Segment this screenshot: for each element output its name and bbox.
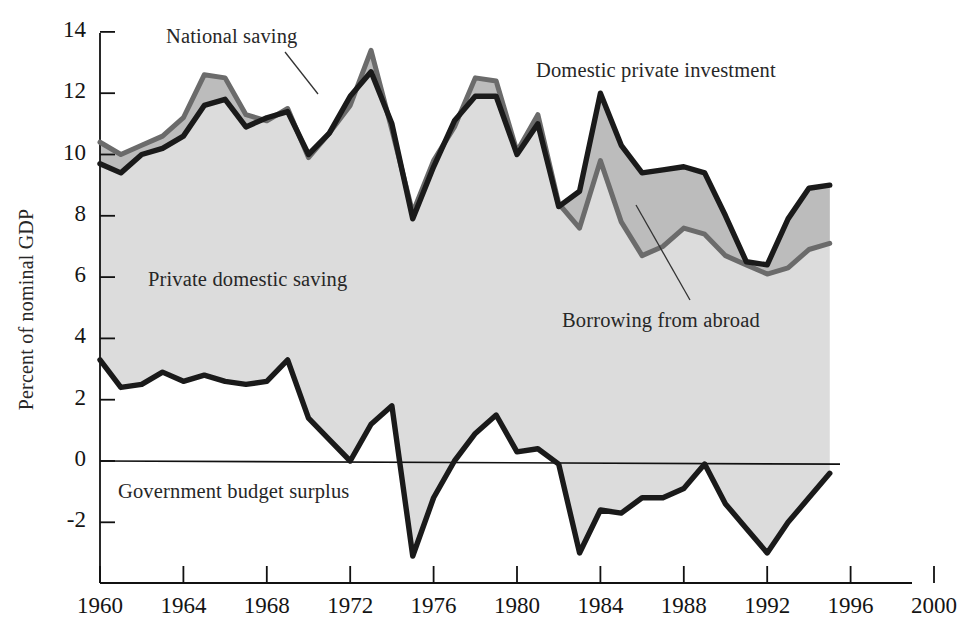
annotation-domestic-private-investment: Domestic private investment xyxy=(536,59,776,82)
y-tick-label: -2 xyxy=(34,507,86,533)
x-tick-label: 1960 xyxy=(60,593,140,619)
x-tick-label: 1972 xyxy=(310,593,390,619)
annotation-government-budget-surplus: Government budget surplus xyxy=(118,480,350,503)
annotation-national-saving: National saving xyxy=(166,25,298,48)
x-tick-label: 1964 xyxy=(143,593,223,619)
y-tick-label: 8 xyxy=(34,201,86,227)
y-tick-label: 2 xyxy=(34,385,86,411)
y-tick-label: 4 xyxy=(34,323,86,349)
x-tick-label: 1968 xyxy=(227,593,307,619)
y-tick-label: 6 xyxy=(34,262,86,288)
annotation-borrowing-from-abroad: Borrowing from abroad xyxy=(562,309,760,332)
annotation-private-domestic-saving: Private domestic saving xyxy=(148,268,347,291)
y-tick-label: 12 xyxy=(34,78,86,104)
x-tick-label: 1976 xyxy=(394,593,474,619)
y-tick-label: 0 xyxy=(34,446,86,472)
x-tick-label: 1996 xyxy=(811,593,891,619)
x-tick-label: 2000 xyxy=(894,593,961,619)
y-tick-label: 14 xyxy=(34,17,86,43)
x-tick-label: 1980 xyxy=(477,593,557,619)
y-tick-label: 10 xyxy=(34,140,86,166)
x-tick-label: 1988 xyxy=(644,593,724,619)
x-tick-label: 1984 xyxy=(560,593,640,619)
x-tick-label: 1992 xyxy=(727,593,807,619)
leader-line-national-saving xyxy=(285,52,318,94)
